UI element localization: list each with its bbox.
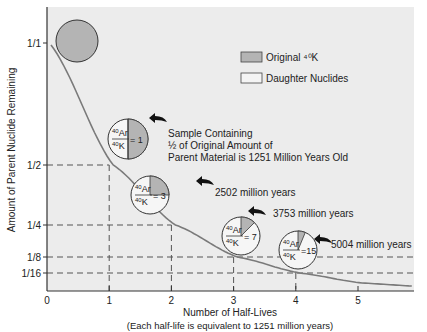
- legend-label-daughter: Daughter Nuclides: [266, 73, 348, 84]
- original-sample-circle: [56, 20, 98, 62]
- y-tick-label: 1/2: [27, 160, 41, 171]
- half-life-chart: 1/11/21/41/81/16 012345 Original ⁴⁰K Dau…: [0, 0, 427, 332]
- x-tick-label: 2: [169, 295, 175, 306]
- x-tick-label: 5: [355, 295, 361, 306]
- age-caption-line2: ½ of Original Amount of: [168, 140, 273, 151]
- x-axis-label: Number of Half-Lives: [183, 307, 277, 318]
- x-axis-sublabel: (Each half-life is equivalent to 1251 mi…: [127, 320, 333, 331]
- age-caption-line3: Parent Material is 1251 Million Years Ol…: [168, 152, 348, 163]
- x-tick-label: 3: [231, 295, 237, 306]
- age-caption: 3753 million years: [273, 208, 354, 219]
- y-tick-label: 1/4: [27, 220, 41, 231]
- y-axis-ticks: 1/11/21/41/81/16: [22, 38, 47, 279]
- age-caption: Sample Containing: [168, 128, 253, 139]
- y-axis-label: Amount of Parent Nuclide Remaining: [6, 68, 17, 233]
- y-tick-label: 1/8: [27, 252, 41, 263]
- ratio-value: =15: [301, 246, 316, 256]
- legend-swatch-daughter: [241, 73, 262, 83]
- x-tick-label: 1: [106, 295, 112, 306]
- y-tick-label: 1/1: [27, 38, 41, 49]
- ratio-value: = 7: [244, 232, 257, 242]
- y-tick-label: 1/16: [22, 268, 42, 279]
- x-tick-label: 4: [293, 295, 299, 306]
- ratio-value: = 3: [153, 191, 166, 201]
- age-caption: 5004 million years: [331, 239, 412, 250]
- legend-swatch-original: [241, 52, 262, 62]
- age-caption: 2502 million years: [215, 187, 296, 198]
- x-tick-label: 0: [44, 295, 50, 306]
- legend-label-original: Original ⁴⁰K: [266, 52, 319, 63]
- ratio-value: = 1: [130, 135, 143, 145]
